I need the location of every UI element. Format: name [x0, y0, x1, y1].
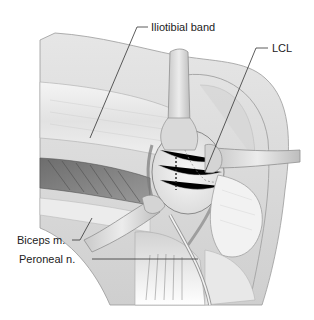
label-iliotibial-band: Iliotibial band: [151, 21, 215, 33]
label-lcl: LCL: [272, 42, 292, 54]
label-biceps-muscle: Biceps m.: [17, 234, 65, 246]
surgical-illustration: Iliotibial band LCL Biceps m. Peroneal n…: [0, 0, 314, 320]
knee-lateral-approach-drawing: [0, 0, 314, 320]
label-peroneal-nerve: Peroneal n.: [19, 253, 75, 265]
